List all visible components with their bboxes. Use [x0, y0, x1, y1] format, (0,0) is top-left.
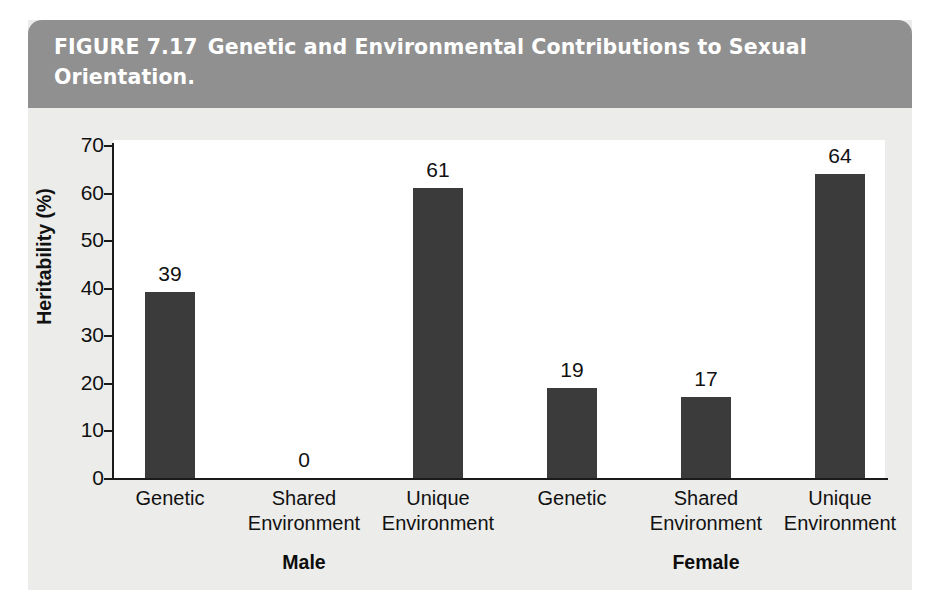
x-category-label: Unique Environment — [760, 486, 920, 536]
y-tick-mark — [104, 193, 113, 195]
bar-value-label: 17 — [656, 367, 756, 391]
bar-value-label: 64 — [790, 144, 890, 168]
x-axis-line — [104, 478, 888, 480]
bar — [547, 388, 597, 478]
bar — [815, 174, 865, 478]
y-axis-title: Heritability (%) — [33, 127, 56, 387]
bar — [413, 188, 463, 478]
bar — [681, 397, 731, 478]
plot-area: 39061191764 — [113, 140, 885, 478]
y-tick-mark — [104, 145, 113, 147]
y-tick-mark — [104, 240, 113, 242]
bar-value-label: 19 — [522, 358, 622, 382]
y-tick-mark — [104, 478, 113, 480]
y-tick-label: 10 — [46, 418, 104, 442]
figure-caption: FIGURE 7.17Genetic and Environmental Con… — [54, 32, 886, 92]
figure-root: FIGURE 7.17Genetic and Environmental Con… — [0, 0, 930, 613]
y-tick-mark — [104, 430, 113, 432]
y-tick-mark — [104, 288, 113, 290]
y-tick-mark — [104, 383, 113, 385]
figure-number: FIGURE 7.17 — [54, 35, 198, 59]
x-group-label: Male — [214, 551, 394, 574]
bar-value-label: 39 — [120, 262, 220, 286]
y-tick-mark — [104, 335, 113, 337]
bar-value-label: 0 — [254, 448, 354, 472]
bar-value-label: 61 — [388, 158, 488, 182]
x-group-label: Female — [616, 551, 796, 574]
bar — [145, 292, 195, 478]
figure-caption-banner: FIGURE 7.17Genetic and Environmental Con… — [28, 20, 912, 108]
